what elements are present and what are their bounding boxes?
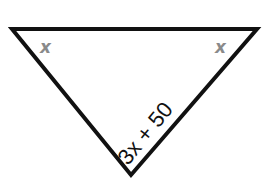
triangle-diagram: x x 3x + 50 [0,0,275,193]
angle-label-top-right: x [214,37,227,57]
angle-label-top-left: x [39,37,52,57]
